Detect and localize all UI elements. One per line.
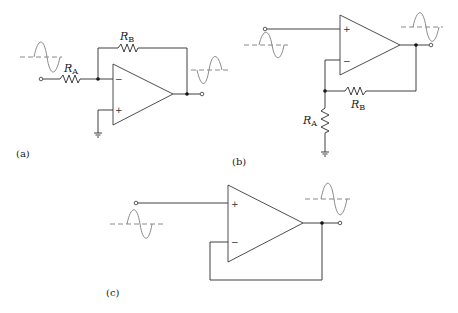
plus-input-sign: + (343, 24, 351, 34)
input-waveform-icon (110, 210, 163, 239)
label-ra: RA (302, 114, 317, 128)
caption-a: (a) (16, 148, 30, 159)
output-node (320, 221, 324, 225)
resistor-rb (118, 44, 138, 52)
resistor-ra (60, 75, 80, 83)
ground-icon (321, 152, 329, 156)
plus-input-sign: + (231, 199, 239, 209)
label-rb: RB (350, 98, 365, 112)
resistor-ra (321, 108, 329, 133)
caption-b: (b) (232, 156, 246, 167)
minus-input-sign: − (231, 237, 239, 247)
caption-c: (c) (106, 287, 120, 298)
minus-input-sign: − (115, 74, 123, 84)
op-amp-figure: RA RB − + (a) (0, 0, 458, 313)
output-node (185, 92, 189, 96)
panel-c-voltage-follower: + − (c) (106, 183, 352, 298)
output-terminal (429, 43, 433, 47)
output-waveform-icon (401, 13, 443, 42)
output-terminal (200, 92, 204, 96)
output-terminal (338, 221, 342, 225)
label-rb: RB (119, 30, 134, 44)
input-waveform-icon (20, 42, 62, 72)
input-terminal (263, 27, 267, 31)
input-terminal (39, 77, 43, 81)
output-node (414, 43, 418, 47)
input-terminal (134, 201, 138, 205)
panel-b-non-inverting-amplifier: + − RB RA (b) (232, 13, 443, 167)
output-waveform-icon (305, 183, 352, 215)
resistor-rb (345, 87, 366, 95)
output-waveform-icon (191, 57, 230, 84)
minus-input-sign: − (343, 56, 351, 66)
plus-input-sign: + (115, 105, 123, 115)
panel-a-inverting-amplifier: RA RB − + (a) (16, 30, 230, 159)
label-ra: RA (63, 62, 78, 76)
input-waveform-icon (244, 32, 288, 58)
ground-icon (94, 133, 102, 137)
op-amp-triangle (228, 185, 303, 262)
